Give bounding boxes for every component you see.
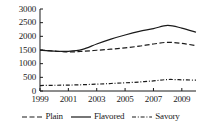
legend-item-plain[interactable]: Plain <box>21 112 63 121</box>
y-tick-label: 1500 <box>6 46 36 55</box>
y-tick-label: 3000 <box>6 5 36 14</box>
legend-item-savory[interactable]: Savory <box>131 112 179 121</box>
x-tick-label: 2009 <box>165 95 199 104</box>
legend-swatch-dash-dot-icon <box>131 113 153 121</box>
series-line-savory <box>40 79 196 85</box>
legend-label: Flavored <box>94 112 124 121</box>
y-tick-label: 500 <box>6 73 36 82</box>
legend-label: Savory <box>155 112 179 121</box>
y-tick-label: 2500 <box>6 18 36 27</box>
legend-swatch-dashed-icon <box>21 113 43 121</box>
legend-item-flavored[interactable]: Flavored <box>70 112 124 121</box>
series-line-flavored <box>40 25 196 51</box>
line-chart: 050010001500200025003000 199920012003200… <box>0 0 201 129</box>
axes <box>40 9 196 91</box>
y-tick-label: 1000 <box>6 59 36 68</box>
series-line-plain <box>40 42 196 52</box>
data-series-group <box>40 25 196 85</box>
y-tick-label: 2000 <box>6 32 36 41</box>
legend-swatch-solid-icon <box>70 113 92 121</box>
chart-legend: PlainFlavoredSavory <box>0 112 201 121</box>
legend-label: Plain <box>45 112 63 121</box>
